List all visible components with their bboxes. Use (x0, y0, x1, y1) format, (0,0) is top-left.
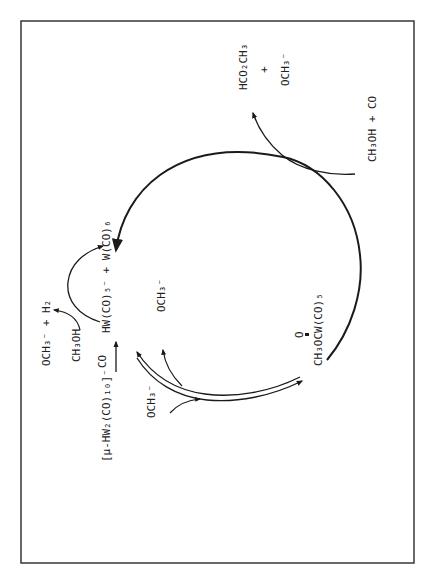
precursor-label: [μ-HW₂(CO)₁₀]⁻ (100, 369, 113, 462)
catalytic-cycle-diagram: [μ-HW₂(CO)₁₀]⁻ CO HW(CO)₅⁻ + W(CO)₆ CH₃O… (0, 0, 431, 583)
carbonyl-oxygen-label: O (293, 331, 306, 338)
methanol-side-label: CH₃OH (70, 329, 83, 362)
equilibrium-arrow-reverse (137, 352, 300, 395)
methoxide-input-label: OCH₃⁻ (145, 385, 158, 418)
equilibrium-arrow-forward (137, 358, 302, 401)
figure-frame (21, 21, 414, 563)
feed-label: CH₃OH + CO (366, 96, 379, 162)
double-bond-mark (305, 333, 309, 336)
products-plus-label: + (258, 66, 271, 73)
hydrogen-products-label: OCH₃⁻ + H₂ (40, 300, 53, 366)
methoxide-product-label: OCH₃⁻ (279, 53, 292, 86)
methanol-to-hydrogen-arrow (54, 310, 80, 330)
ester-product-label: HCO₂CH₃ (237, 44, 250, 90)
hydrogen-cycle-arc (68, 246, 103, 322)
catalyst-label: HW(CO)₅⁻ + W(CO)₆ (100, 220, 113, 333)
methoxide-output-label: OCH₃⁻ (155, 279, 168, 312)
intermediate-label: CH₃OCW(CO)₅ (312, 293, 325, 366)
methoxide-input-arrow (170, 399, 200, 413)
co-reagent-label: CO (96, 355, 109, 368)
